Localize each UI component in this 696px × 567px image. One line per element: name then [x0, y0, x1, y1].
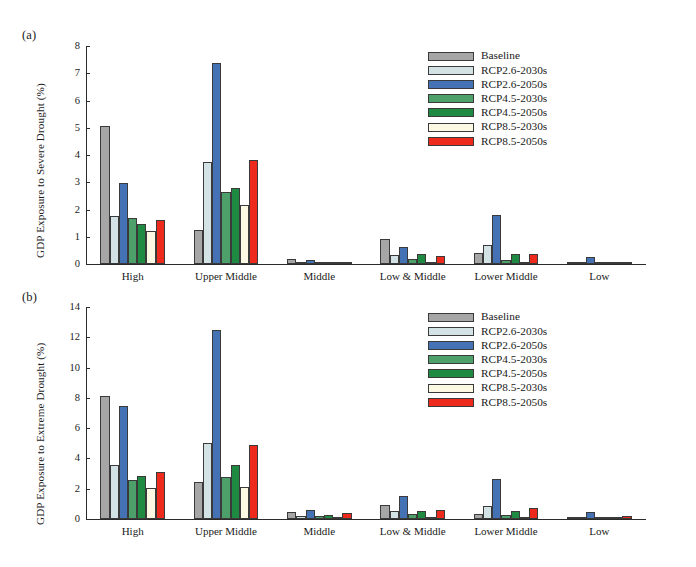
bar — [306, 510, 315, 519]
bar — [100, 126, 109, 264]
bar — [586, 257, 595, 264]
bar — [156, 472, 165, 519]
bar — [380, 239, 389, 264]
legend-swatch — [428, 52, 474, 61]
bar — [203, 162, 212, 264]
bar — [436, 256, 445, 264]
bar — [306, 260, 315, 264]
legend-swatch — [428, 66, 474, 75]
legend-item: RCP4.5-2030s — [428, 353, 547, 367]
bar — [146, 488, 155, 519]
bar — [520, 262, 529, 264]
legend-label: RCP4.5-2030s — [481, 93, 547, 104]
y-tick — [86, 73, 90, 74]
bar — [119, 183, 128, 264]
bar — [595, 262, 604, 264]
legend-swatch — [428, 398, 474, 407]
bar — [511, 511, 520, 519]
bar — [146, 231, 155, 264]
y-tick-label: 6 — [54, 423, 80, 434]
legend-swatch — [428, 355, 474, 364]
x-category-label: Low — [539, 526, 659, 537]
y-tick — [86, 489, 90, 490]
y-tick-label: 5 — [54, 123, 80, 134]
legend-swatch — [428, 94, 474, 103]
bar — [221, 477, 230, 519]
legend-item: Baseline — [428, 49, 547, 63]
bar — [529, 254, 538, 264]
bar — [511, 254, 520, 264]
panel-a-y-axis-title: GDP Exposure to Severe Drought (%) — [34, 83, 46, 258]
bar — [613, 517, 622, 519]
panel-b-label: (b) — [22, 290, 37, 305]
bar — [194, 482, 203, 519]
bar — [296, 516, 305, 519]
bar — [315, 262, 324, 264]
bar — [315, 516, 324, 519]
y-tick-label: 4 — [54, 150, 80, 161]
bar — [529, 508, 538, 519]
bar — [333, 262, 342, 264]
bar — [296, 262, 305, 264]
y-tick — [86, 398, 90, 399]
legend-label: Baseline — [481, 50, 520, 61]
bar — [390, 255, 399, 264]
panel-b: (b) GDP Exposure to Extreme Drought (%) … — [0, 285, 696, 545]
y-tick-label: 10 — [54, 363, 80, 374]
bar — [390, 511, 399, 519]
legend-swatch — [428, 313, 474, 322]
bar — [436, 510, 445, 519]
y-tick — [86, 46, 90, 47]
panel-a-legend: BaselineRCP2.6-2030sRCP2.6-2050sRCP4.5-2… — [428, 49, 547, 148]
y-tick — [86, 155, 90, 156]
bar — [417, 511, 426, 519]
y-tick — [86, 101, 90, 102]
y-tick — [86, 128, 90, 129]
legend-item: RCP8.5-2030s — [428, 120, 547, 134]
y-tick-label: 7 — [54, 68, 80, 79]
bar — [342, 513, 351, 519]
bar — [203, 443, 212, 519]
legend-swatch — [428, 384, 474, 393]
bar — [128, 480, 137, 519]
y-tick-label: 0 — [54, 259, 80, 270]
y-tick-label: 3 — [54, 177, 80, 188]
bar — [249, 160, 258, 264]
bar — [399, 247, 408, 264]
bar — [380, 505, 389, 519]
bar — [324, 515, 333, 519]
legend-swatch — [428, 341, 474, 350]
bar — [408, 514, 417, 519]
bar — [622, 516, 631, 519]
legend-item: RCP4.5-2030s — [428, 92, 547, 106]
y-tick-label: 2 — [54, 484, 80, 495]
bar — [333, 517, 342, 519]
y-tick-label: 14 — [54, 302, 80, 313]
legend-label: RCP4.5-2050s — [481, 107, 547, 118]
bar — [622, 262, 631, 264]
legend-label: RCP2.6-2050s — [481, 340, 547, 351]
x-category-label: Low — [539, 271, 659, 282]
bar — [110, 216, 119, 265]
bar — [128, 218, 137, 264]
bar — [567, 262, 576, 264]
panel-a-plot-area: 012345678 — [86, 46, 646, 264]
legend-item: RCP2.6-2050s — [428, 77, 547, 91]
bar — [520, 517, 529, 519]
bar — [483, 506, 492, 519]
bar — [483, 245, 492, 264]
bar — [567, 517, 576, 519]
y-tick-label: 6 — [54, 96, 80, 107]
bar — [212, 63, 221, 264]
legend-item: RCP4.5-2050s — [428, 106, 547, 120]
bar — [501, 260, 510, 264]
y-tick — [86, 307, 90, 308]
bar — [287, 259, 296, 264]
bar — [324, 262, 333, 264]
y-tick-label: 8 — [54, 393, 80, 404]
bar — [604, 517, 613, 519]
legend-item: Baseline — [428, 310, 547, 324]
legend-item: RCP2.6-2030s — [428, 324, 547, 338]
panel-a-label: (a) — [22, 28, 36, 43]
bar — [613, 262, 622, 264]
